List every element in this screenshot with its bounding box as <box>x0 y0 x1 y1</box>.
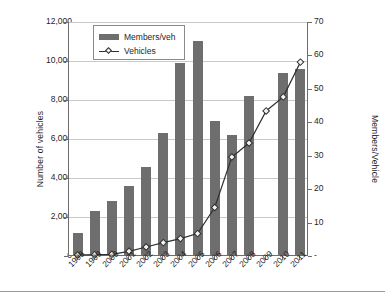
y-axis-right-tick-mark <box>308 256 312 257</box>
y-axis-right-tick-label: 70 <box>314 17 323 26</box>
y-axis-right-tick-label: 60 <box>314 50 323 59</box>
legend-bar-swatch-icon <box>99 34 119 40</box>
legend-item-vehicles: Vehicles <box>99 44 179 58</box>
y-axis-left-tick-mark <box>64 256 68 257</box>
y-axis-right-tick-label: 30 <box>314 151 323 160</box>
line-path <box>78 62 301 255</box>
legend-label-members-per-veh: Members/veh <box>124 32 176 42</box>
y-axis-right-tick-label: 10 <box>314 218 323 227</box>
line-marker-diamond <box>211 204 218 211</box>
footer-divider <box>0 291 385 292</box>
y-axis-right-tick-label: - <box>314 251 317 260</box>
legend-item-members-per-veh: Members/veh <box>99 30 179 44</box>
y-axis-right-tick-label: 40 <box>314 117 323 126</box>
chart-legend: Members/veh Vehicles <box>93 25 185 60</box>
legend-label-vehicles: Vehicles <box>124 46 156 56</box>
chart-figure: Number of vehicles Members/Vehicle 02,00… <box>0 0 385 298</box>
y-axis-right-title: Members/Vehicle <box>370 115 380 183</box>
y-axis-right-tick-label: 20 <box>314 184 323 193</box>
y-axis-left-title: Number of vehicles <box>35 111 45 187</box>
line-marker-diamond <box>297 59 304 66</box>
legend-line-diamond-swatch-icon <box>99 47 119 55</box>
line-marker-diamond <box>177 235 184 242</box>
y-axis-right-tick-label: 50 <box>314 84 323 93</box>
line-marker-diamond <box>160 239 167 246</box>
line-marker-diamond <box>194 230 201 237</box>
